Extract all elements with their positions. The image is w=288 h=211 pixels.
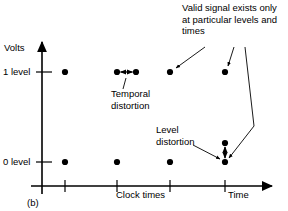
data-point [133, 69, 139, 75]
data-point [62, 69, 68, 75]
temporal-distortion-indicator [121, 72, 133, 89]
panel-label: (b) [27, 197, 39, 209]
valid-signal-leader-left [176, 47, 205, 68]
valid-signal-leader-right [229, 47, 254, 158]
data-point [114, 69, 120, 75]
level-distortion-indicator [193, 145, 225, 159]
x-axis-title: Time [228, 189, 249, 201]
axis-group [31, 42, 272, 194]
level-distortion-leader [193, 145, 220, 159]
valid-signal-leader-middle [228, 47, 234, 66]
data-point [222, 159, 228, 165]
y-tick-label-zero-level: 0 level [3, 156, 30, 168]
data-point [114, 159, 120, 165]
annotation-valid-signal: Valid signal exists only at particular l… [182, 2, 286, 37]
x-axis-caption: Clock times [116, 189, 165, 201]
data-points-one-level [62, 69, 228, 75]
y-axis-ticks [36, 72, 52, 162]
annotation-level-distortion: Level distortion [156, 124, 218, 147]
figure-panel-b: Volts 1 level 0 level Clock times Time (… [0, 0, 288, 211]
data-point [167, 159, 173, 165]
data-point [167, 69, 173, 75]
annotation-temporal-distortion: Temporal distortion [111, 88, 181, 111]
data-point-offset-level [222, 140, 228, 146]
data-point [222, 69, 228, 75]
data-point [62, 159, 68, 165]
y-axis-title: Volts [4, 42, 25, 54]
y-tick-label-one-level: 1 level [3, 66, 30, 78]
